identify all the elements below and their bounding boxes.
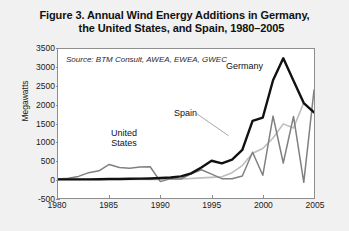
figure-title: Figure 3. Annual Wind Energy Additions i… (0, 9, 349, 34)
title-line-2: the United States, and Spain, 1980–2005 (14, 22, 335, 35)
y-tick-label: 500 (22, 157, 55, 166)
series-line-germany (58, 58, 314, 179)
x-tick-label: 2000 (254, 201, 273, 210)
x-tick-mark (212, 195, 213, 199)
figure-container: Figure 3. Annual Wind Energy Additions i… (0, 0, 349, 231)
plot-svg (58, 49, 314, 198)
x-tick-label: 1995 (202, 201, 221, 210)
x-tick-label: 1990 (151, 201, 170, 210)
series-line-united-states (58, 90, 314, 182)
x-tick-mark (109, 195, 110, 199)
y-tick-label: 3500 (22, 44, 55, 53)
x-axis: 198019851990199520002005 (57, 201, 315, 215)
y-axis-title: Megawatts (20, 58, 30, 144)
spain-leader-line (196, 113, 229, 136)
title-line-1: Figure 3. Annual Wind Energy Additions i… (14, 9, 335, 22)
plot-area: Source: BTM Consult, AWEA, EWEA, GWEC Ge… (57, 48, 315, 199)
x-tick-mark (263, 195, 264, 199)
x-tick-label: 1985 (99, 201, 118, 210)
series-line-spain (58, 103, 314, 180)
x-tick-label: 1980 (48, 201, 67, 210)
x-tick-label: 2005 (306, 201, 325, 210)
y-tick-label: 0 (22, 176, 55, 185)
x-tick-mark (160, 195, 161, 199)
